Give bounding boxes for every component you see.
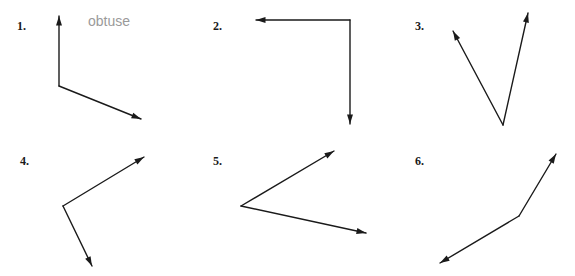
- arrowhead: [56, 16, 62, 26]
- arrowhead: [440, 256, 450, 263]
- ray-upper-left: [453, 31, 503, 125]
- angle-diagrams-layer: [0, 0, 575, 276]
- ray-lower-right: [241, 206, 366, 233]
- ray-lower-right: [63, 206, 92, 266]
- arrowhead: [324, 151, 334, 158]
- angle-diagram: [56, 16, 141, 119]
- arrowhead: [453, 31, 460, 41]
- ray-upper-right: [241, 151, 334, 206]
- arrowhead: [356, 228, 366, 234]
- angle-diagram: [241, 151, 366, 234]
- angle-diagram: [256, 17, 353, 124]
- problem-number: 3.: [415, 20, 424, 32]
- angle-diagram: [63, 157, 144, 266]
- arrowhead: [134, 157, 144, 164]
- ray-lower-right: [59, 86, 141, 119]
- problem-number: 4.: [20, 155, 29, 167]
- arrowhead: [85, 256, 92, 266]
- angle-diagram: [440, 154, 556, 263]
- arrowhead: [347, 115, 353, 125]
- problem-number: 6.: [415, 155, 424, 167]
- arrowhead: [256, 17, 266, 23]
- angle-worksheet: 1.obtuse2.3.4.5.6.: [0, 0, 575, 276]
- angle-diagram: [453, 13, 529, 125]
- answer-field[interactable]: obtuse: [88, 14, 130, 28]
- problem-number: 2.: [213, 20, 222, 32]
- ray-upper-right: [503, 13, 528, 125]
- problem-number: 1.: [17, 20, 26, 32]
- arrowhead: [549, 154, 556, 164]
- arrowhead: [523, 13, 529, 23]
- ray-upper-right: [519, 154, 556, 216]
- problem-number: 5.: [213, 155, 222, 167]
- ray-lower-left: [440, 216, 519, 263]
- arrowhead: [131, 113, 141, 119]
- ray-upper-right: [63, 157, 144, 206]
